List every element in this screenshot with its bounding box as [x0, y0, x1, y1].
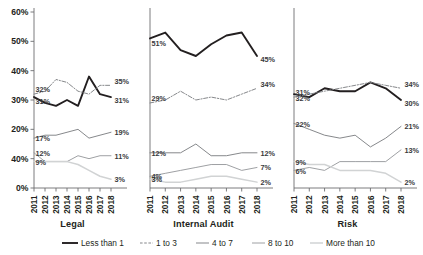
panel-title: Internal Audit	[173, 219, 233, 229]
y-tick-label: 60%	[11, 7, 29, 17]
data-label-end: 45%	[261, 55, 276, 64]
x-tick-label: 2018	[107, 195, 116, 214]
x-tick-label: 2015	[351, 195, 360, 214]
data-label-end: 13%	[405, 146, 420, 155]
legend-label-1-to-3: 1 to 3	[156, 238, 177, 248]
data-label-start: 3%	[152, 175, 163, 184]
data-label-end: 11%	[115, 152, 130, 161]
y-tick-label: 40%	[11, 66, 29, 76]
data-label-end: 19%	[115, 128, 130, 137]
x-tick-label: 2018	[397, 195, 406, 214]
data-label-start: 22%	[296, 120, 311, 129]
x-tick-label: 2011	[146, 195, 155, 213]
panel-legal: 0%40%20%30%40%50%60%20112012201320142015…	[0, 0, 133, 229]
data-label-start: 12%	[36, 149, 51, 158]
multi-panel-line-chart: 0%40%20%30%40%50%60%20112012201320142015…	[0, 0, 423, 255]
x-tick-label: 2013	[52, 195, 61, 214]
x-tick-label: 2012	[161, 195, 170, 214]
x-tick-label: 2013	[177, 195, 186, 214]
x-tick-label: 2014	[192, 195, 201, 214]
x-tick-label: 2012	[41, 195, 50, 214]
legend-label-more-than-10: More than 10	[326, 238, 375, 248]
chart-legend: Less than 11 to 34 to 78 to 10More than …	[62, 238, 375, 248]
y-tick-label: 30%	[11, 95, 29, 105]
x-tick-label: 2012	[305, 195, 314, 214]
data-label-start: 12%	[152, 149, 167, 158]
panel-title: Legal	[60, 219, 85, 229]
x-tick-label: 2016	[367, 195, 376, 214]
data-label-end: 2%	[405, 178, 416, 187]
data-label-end: 30%	[405, 99, 420, 108]
data-label-start: 31%	[36, 97, 51, 106]
data-label-start: 32%	[36, 85, 51, 94]
data-label-start: 9%	[296, 158, 307, 167]
y-tick-label: 0%	[16, 183, 29, 193]
x-tick-label: 2018	[253, 195, 262, 214]
data-label-end: 3%	[115, 175, 126, 184]
y-tick-label: 40%	[11, 154, 29, 164]
data-label-end: 34%	[405, 80, 420, 89]
x-tick-label: 2017	[96, 195, 105, 214]
data-label-end: 21%	[405, 122, 420, 131]
data-label-start: 6%	[296, 167, 307, 176]
x-tick-label: 2015	[207, 195, 216, 214]
data-label-end: 7%	[261, 163, 272, 172]
data-label-end: 12%	[261, 149, 276, 158]
chart-canvas: 0%40%20%30%40%50%60%20112012201320142015…	[0, 0, 423, 255]
x-tick-label: 2014	[336, 195, 345, 214]
x-tick-label: 2017	[382, 195, 391, 214]
data-label-end: 31%	[115, 96, 130, 105]
y-tick-label: 20%	[11, 124, 29, 134]
data-label-end: 2%	[261, 178, 272, 187]
x-tick-label: 2013	[321, 195, 330, 214]
panel-title: Risk	[338, 219, 359, 229]
data-label-start: 29%	[152, 94, 167, 103]
legend-label-8-to-10: 8 to 10	[268, 238, 294, 248]
legend-label-4-to-7: 4 to 7	[212, 238, 233, 248]
legend-label-less-than-1: Less than 1	[81, 238, 124, 248]
x-tick-label: 2016	[85, 195, 94, 214]
x-tick-label: 2016	[223, 195, 232, 214]
x-tick-label: 2011	[30, 195, 39, 213]
x-tick-label: 2017	[238, 195, 247, 214]
y-tick-label: 50%	[11, 36, 29, 46]
panel-risk: 2011201220132014201520162017201832%30%31…	[290, 0, 423, 229]
data-label-end: 34%	[261, 80, 276, 89]
data-label-start: 17%	[36, 134, 51, 143]
data-label-end: 35%	[115, 77, 130, 86]
x-tick-label: 2014	[63, 195, 72, 214]
panel-internal-audit: 2011201220132014201520162017201851%45%29…	[146, 0, 279, 229]
data-label-start: 9%	[36, 158, 47, 167]
x-tick-label: 2011	[290, 195, 299, 213]
data-label-start: 51%	[152, 39, 167, 48]
data-label-start: 31%	[296, 88, 311, 97]
x-tick-label: 2015	[74, 195, 83, 214]
